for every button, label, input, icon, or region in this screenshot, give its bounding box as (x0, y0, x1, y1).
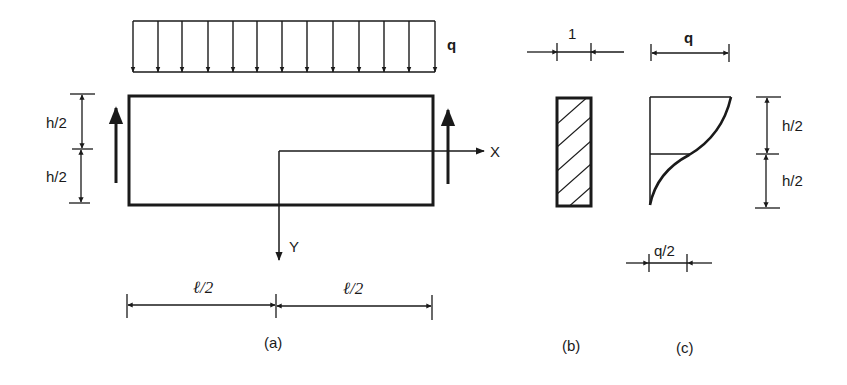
length-dimension: ℓ/2 ℓ/2 (127, 278, 432, 320)
width-label: 1 (568, 25, 576, 42)
mid-load-label: q/2 (654, 242, 675, 259)
panel-a: q h/2 h/2 X Y (46, 21, 500, 351)
length-label-right: ℓ/2 (343, 279, 364, 298)
top-load-label: q (684, 29, 693, 46)
cross-section (557, 94, 591, 217)
section-hatching (557, 94, 591, 217)
height-dimension-right: h/2 h/2 (755, 97, 803, 208)
panel-b: 1 (b) (527, 25, 624, 354)
load-arrows (133, 21, 435, 72)
distributed-load: q (133, 21, 456, 72)
shear-distribution (650, 97, 731, 205)
coordinate-axes: X Y (279, 143, 500, 260)
x-axis-label: X (490, 143, 500, 160)
height-label-top: h/2 (46, 114, 67, 131)
caption-b: (b) (562, 337, 580, 354)
length-label-left: ℓ/2 (193, 278, 214, 297)
panel-c: q h/2 h/2 q/2 (c) (626, 29, 803, 356)
y-axis-label: Y (289, 238, 299, 255)
beam-diagram: q h/2 h/2 X Y (0, 0, 847, 385)
width-dimension: 1 (527, 25, 624, 61)
height-label-bottom: h/2 (46, 168, 67, 185)
height-dimension-left: h/2 h/2 (46, 94, 95, 203)
mid-load-dimension: q/2 (626, 242, 712, 272)
caption-a: (a) (264, 334, 282, 351)
height-label-bottom-c: h/2 (782, 172, 803, 189)
caption-c: (c) (676, 339, 694, 356)
top-load-dimension: q (651, 29, 729, 62)
height-label-top-c: h/2 (782, 117, 803, 134)
load-label: q (447, 36, 456, 53)
